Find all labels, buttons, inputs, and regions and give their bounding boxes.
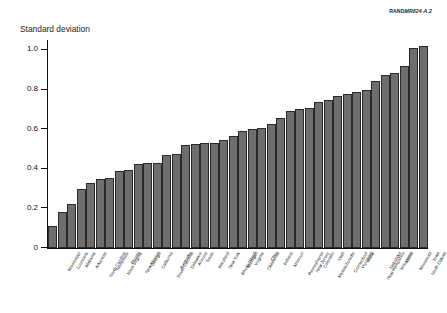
bar bbox=[305, 108, 314, 248]
bar bbox=[181, 145, 190, 248]
bar bbox=[143, 163, 152, 248]
y-axis-tick-label: 0.2 bbox=[27, 203, 38, 212]
bar bbox=[409, 48, 418, 248]
report-id-label: RANDMR824-A.2 bbox=[389, 8, 432, 14]
y-axis-tick: 1.0 bbox=[41, 49, 48, 50]
y-axis-tick-label: 1.0 bbox=[27, 44, 38, 53]
bar bbox=[134, 164, 143, 248]
x-axis-tick-label: Utah bbox=[336, 251, 345, 262]
bar bbox=[400, 66, 409, 248]
y-axis-tick: 0.2 bbox=[41, 207, 48, 208]
bar bbox=[419, 46, 428, 248]
x-axis-tick-label: Missouri bbox=[292, 251, 305, 268]
bar bbox=[371, 81, 380, 248]
bar bbox=[210, 143, 219, 248]
bar bbox=[162, 155, 171, 248]
bar bbox=[153, 163, 162, 248]
y-axis-title: Standard deviation bbox=[20, 24, 90, 34]
report-number-text: MR824-A.2 bbox=[405, 8, 432, 14]
bar bbox=[86, 183, 95, 248]
y-axis-tick-label: 0.6 bbox=[27, 124, 38, 133]
bar bbox=[229, 136, 238, 248]
plot-inner bbox=[48, 40, 428, 248]
y-axis-tick: 0 bbox=[41, 247, 48, 248]
bar bbox=[96, 179, 105, 248]
bar bbox=[314, 102, 323, 248]
bar bbox=[115, 171, 124, 248]
bar bbox=[200, 143, 209, 248]
bar bbox=[124, 170, 133, 248]
bar bbox=[219, 140, 228, 248]
bar bbox=[267, 124, 276, 248]
bar bbox=[172, 154, 181, 248]
bar bbox=[48, 226, 57, 248]
bar bbox=[324, 100, 333, 248]
bar bbox=[390, 73, 399, 248]
plot-area: 00.20.40.60.81.0 bbox=[47, 40, 428, 249]
bar bbox=[276, 118, 285, 248]
bar bbox=[295, 109, 304, 248]
bar bbox=[362, 90, 371, 248]
bar bbox=[58, 212, 67, 248]
bar bbox=[191, 144, 200, 248]
bar bbox=[105, 178, 114, 248]
y-axis-tick-label: 0.4 bbox=[27, 163, 38, 172]
bar bbox=[343, 94, 352, 249]
bar bbox=[238, 131, 247, 248]
bar bbox=[77, 189, 86, 248]
x-axis-tick-label: Minnesota bbox=[418, 251, 432, 271]
y-axis-tick: 0.4 bbox=[41, 168, 48, 169]
bar bbox=[381, 75, 390, 248]
x-axis-tick-label: California bbox=[160, 251, 174, 270]
bar bbox=[286, 111, 295, 248]
bar bbox=[248, 129, 257, 248]
bar bbox=[333, 96, 342, 248]
y-axis-tick-label: 0.8 bbox=[27, 84, 38, 93]
bar bbox=[67, 204, 76, 248]
rand-logo-text: RAND bbox=[389, 8, 404, 14]
y-axis-tick: 0.6 bbox=[41, 128, 48, 129]
bar bbox=[352, 92, 361, 248]
y-axis-tick-label: 0 bbox=[34, 243, 38, 252]
bar bbox=[257, 128, 266, 248]
y-axis-tick: 0.8 bbox=[41, 89, 48, 90]
